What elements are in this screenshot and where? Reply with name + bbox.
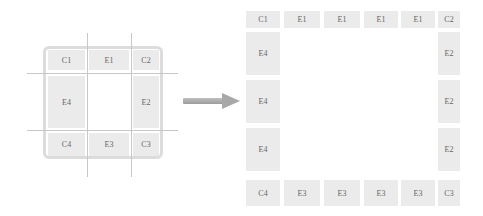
tile-right-2: E2 <box>438 128 460 171</box>
slice-e4: E4 <box>48 76 85 128</box>
slice-c3: C3 <box>133 133 159 156</box>
tile-bottom-4: E3 <box>401 180 435 206</box>
tile-bottom-2: E3 <box>324 180 360 206</box>
tile-left-0: E4 <box>246 32 280 75</box>
slice-e2: E2 <box>133 76 159 128</box>
slice-e1: E1 <box>89 50 129 70</box>
slice-guide-horizontal-1 <box>27 73 178 74</box>
slice-c4: C4 <box>48 133 85 156</box>
tile-top-5: C2 <box>438 11 460 28</box>
tile-bottom-1: E3 <box>284 180 320 206</box>
tile-right-0: E2 <box>438 32 460 75</box>
slice-c1: C1 <box>48 50 85 70</box>
slice-c2: C2 <box>133 50 159 70</box>
tile-top-3: E1 <box>364 11 398 28</box>
slice-guide-vertical-2 <box>131 33 132 177</box>
tile-top-0: C1 <box>246 11 280 28</box>
arrow-shaft <box>183 98 225 104</box>
slice-e3: E3 <box>89 133 129 156</box>
tile-top-2: E1 <box>324 11 360 28</box>
tile-bottom-3: E3 <box>364 180 398 206</box>
tile-top-1: E1 <box>284 11 320 28</box>
tile-left-2: E4 <box>246 128 280 171</box>
tile-bottom-5: C3 <box>438 180 460 206</box>
slice-guide-vertical-1 <box>87 33 88 177</box>
tile-top-4: E1 <box>401 11 435 28</box>
tile-left-1: E4 <box>246 80 280 123</box>
slice-guide-horizontal-2 <box>27 130 178 131</box>
tile-bottom-0: C4 <box>246 180 280 206</box>
arrow-head <box>222 93 240 109</box>
tile-right-1: E2 <box>438 80 460 123</box>
